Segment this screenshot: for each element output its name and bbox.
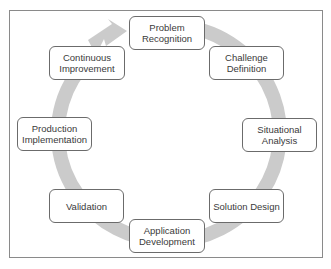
node-situational-analysis: Situational Analysis (242, 118, 317, 152)
node-label: Solution Design (213, 201, 280, 212)
node-label: Problem Recognition (142, 22, 192, 44)
node-solution-design: Solution Design (209, 189, 284, 223)
node-continuous-improvement: Continuous Improvement (49, 46, 125, 80)
node-label: Challenge Definition (225, 52, 268, 74)
node-label: Production Implementation (22, 123, 87, 145)
node-challenge-definition: Challenge Definition (209, 46, 284, 80)
node-label: Validation (66, 201, 107, 212)
node-label: Application Development (139, 225, 195, 247)
node-label: Situational Analysis (257, 124, 301, 146)
node-problem-recognition: Problem Recognition (129, 16, 205, 50)
node-production-implementation: Production Implementation (17, 117, 92, 151)
node-application-development: Application Development (129, 219, 205, 253)
node-validation: Validation (49, 189, 124, 223)
node-label: Continuous Improvement (59, 52, 114, 74)
